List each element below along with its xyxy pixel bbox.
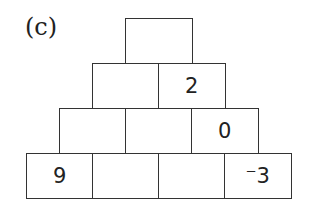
- part-label: (c): [25, 15, 57, 39]
- pyramid-cell-r1-c1: [125, 18, 193, 64]
- pyramid-cell-r2-c2: 2: [158, 63, 226, 109]
- pyramid-cell-r4-c2: [92, 153, 160, 199]
- pyramid-cell-r4-c1: 9: [26, 153, 94, 199]
- pyramid-cell-r3-c2: [125, 108, 193, 154]
- pyramid-cell-r2-c1: [92, 63, 160, 109]
- pyramid-cell-r3-c3: 0: [191, 108, 259, 154]
- pyramid-cell-r4-c4: ⁻3: [224, 153, 292, 199]
- pyramid-cell-r4-c3: [158, 153, 226, 199]
- pyramid-cell-r3-c1: [59, 108, 127, 154]
